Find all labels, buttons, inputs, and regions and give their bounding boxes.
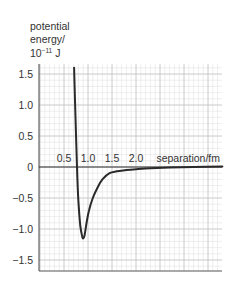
y-tick-label: −0.5	[12, 192, 33, 204]
x-tick-label: 1.0	[81, 152, 96, 164]
y-tick-labels: 1.51.00.50−0.5−1.0−1.5	[12, 68, 33, 266]
x-axis-label: separation/fm	[156, 152, 220, 164]
x-tick-labels: 0.51.01.52.0	[57, 152, 144, 164]
y-tick-label: 0.5	[18, 130, 33, 142]
y-tick-label: −1.0	[12, 223, 33, 235]
x-tick-label: 2.0	[129, 152, 144, 164]
y-tick-label: −1.5	[12, 254, 33, 266]
y-tick-label: 1.5	[18, 68, 33, 80]
potential-energy-chart: 1.51.00.50−0.5−1.0−1.5 0.51.01.52.0 sepa…	[0, 0, 225, 286]
x-tick-label: 1.5	[105, 152, 120, 164]
y-tick-label: 0	[27, 161, 33, 173]
y-tick-label: 1.0	[18, 99, 33, 111]
x-tick-label: 0.5	[57, 152, 72, 164]
